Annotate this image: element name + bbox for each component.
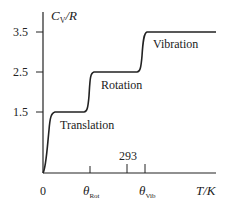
- x-axis-label: T/K: [196, 183, 217, 198]
- y-tick-label-2.5: 2.5: [13, 65, 28, 79]
- x-tick-label-0: 0: [40, 184, 46, 198]
- annotation-translation: Translation: [60, 118, 114, 132]
- annotation-rotation: Rotation: [101, 78, 142, 92]
- y-tick-label-1.5: 1.5: [13, 105, 28, 119]
- heat-capacity-chart: 3.5 2.5 1.5 CV/R 0 θRot 293 θVib T/K Tra…: [0, 0, 228, 209]
- x-tick-label-theta-vib: θVib: [139, 183, 156, 200]
- x-tick-label-293: 293: [119, 149, 137, 163]
- y-tick-label-3.5: 3.5: [13, 25, 28, 39]
- annotation-vibration: Vibration: [153, 37, 198, 51]
- x-tick-label-theta-rot: θRot: [83, 183, 100, 200]
- y-axis-label: CV/R: [51, 8, 77, 25]
